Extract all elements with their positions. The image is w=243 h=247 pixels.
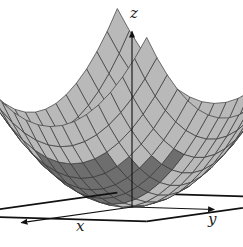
y-axis-label: y: [208, 212, 216, 227]
surface-plot: [0, 0, 243, 247]
z-axis-label: z: [130, 6, 138, 21]
paraboloid-figure: z x y: [0, 0, 243, 247]
x-axis-label: x: [76, 219, 84, 234]
paraboloid-surface: [0, 9, 243, 207]
